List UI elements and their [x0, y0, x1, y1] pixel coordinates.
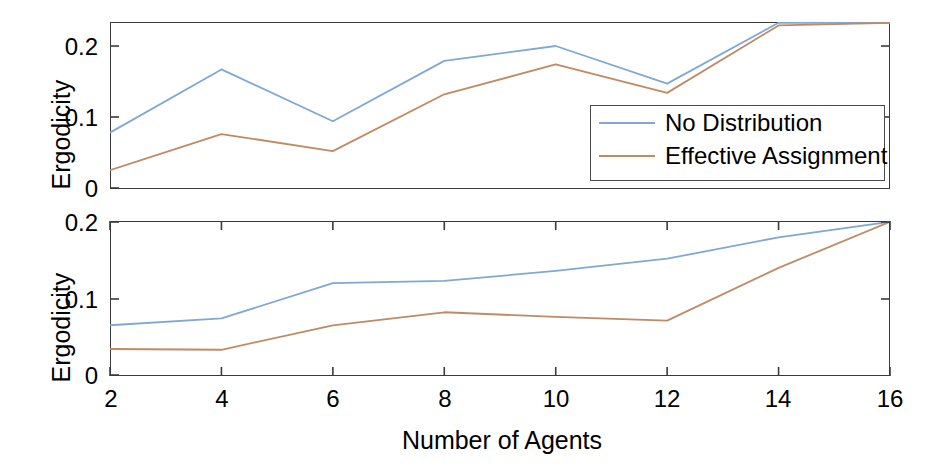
- series-line: [110, 222, 890, 325]
- figure-root: Ergodicity 0 0.1 0.2 No Distribution Eff…: [0, 0, 944, 470]
- xtick-label-6: 6: [303, 385, 363, 413]
- bottom-ytick-label-0.1: 0.1: [36, 286, 98, 314]
- xtick-label-4: 4: [192, 385, 252, 413]
- series-line: [110, 222, 890, 350]
- xtick-label-14: 14: [748, 385, 808, 413]
- xtick-label-10: 10: [526, 385, 586, 413]
- xtick-label-2: 2: [81, 385, 141, 413]
- xtick-label-16: 16: [860, 385, 920, 413]
- xtick-label-8: 8: [415, 385, 475, 413]
- xtick-label-12: 12: [637, 385, 697, 413]
- bottom-ytick-label-0.2: 0.2: [36, 209, 98, 237]
- xaxis-label: Number of Agents: [322, 426, 682, 455]
